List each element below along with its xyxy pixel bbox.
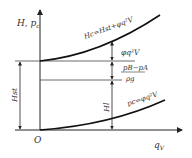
x-axis-label: qV (154, 140, 165, 151)
upper-curve-label: Hc=Hst+φq²V (82, 15, 135, 41)
hst-label: Hst (10, 87, 19, 103)
y-axis-label: H, pc (16, 18, 40, 29)
fraction-denominator: ρg (125, 75, 135, 83)
phi-q2-label: φq²V (121, 48, 141, 57)
hl-label: Hl (102, 102, 111, 113)
system-curve-diagram: H, pc qV O Hc=Hst+φq²V pc=φq²V Hst Hl φq… (0, 0, 192, 158)
fraction-numerator: pB−pA (123, 64, 148, 72)
origin-label: O (34, 135, 42, 145)
system-curve-upper (40, 15, 160, 61)
